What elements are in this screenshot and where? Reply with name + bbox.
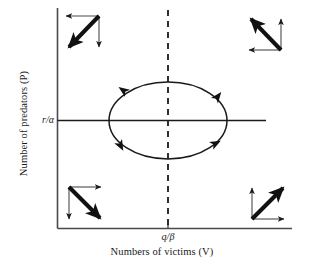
quadrant-vectors-bottom-left	[69, 187, 101, 219]
orbit-arrowhead-bottom-left	[114, 139, 127, 153]
axis-frame	[58, 8, 293, 229]
x-axis-label: Numbers of victims (V)	[56, 246, 268, 257]
x-axis-tick-label: q/β	[148, 231, 188, 242]
resultant-arrow-up-left-icon	[251, 19, 281, 50]
quadrant-vectors-bottom-right	[252, 188, 284, 219]
y-axis-label: Number of predators (P)	[18, 54, 29, 194]
resultant-arrow-down-right-icon	[69, 187, 100, 218]
phase-plane-figure: Number of predators (P) Numbers of victi…	[0, 0, 311, 273]
quadrant-vectors-top-right	[249, 19, 281, 50]
y-axis-tick-label: r/α	[30, 114, 54, 125]
resultant-arrow-down-left-icon	[69, 16, 99, 47]
quadrant-vectors-top-left	[66, 16, 99, 47]
resultant-arrow-up-right-icon	[252, 188, 283, 219]
